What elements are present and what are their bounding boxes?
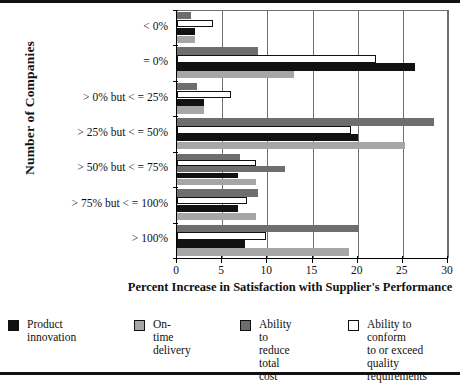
- y-axis-category-label: > 50% but < = 75%: [77, 161, 168, 173]
- bar: [177, 63, 415, 70]
- y-axis-category-label: < 0%: [143, 20, 168, 32]
- bar: [177, 160, 256, 166]
- gridline: [448, 10, 449, 258]
- light-gray-swatch: [134, 320, 145, 331]
- y-axis-tick: [173, 10, 178, 11]
- y-axis-tick: [173, 81, 178, 82]
- bar: [177, 142, 405, 149]
- bar: [177, 166, 285, 172]
- y-axis-category-label: > 0% but < = 25%: [83, 91, 168, 103]
- gridline: [358, 10, 359, 258]
- bar: [177, 28, 195, 35]
- bar: [177, 91, 231, 98]
- bar: [177, 197, 247, 204]
- x-axis-tick-label: 25: [387, 264, 417, 276]
- bar: [177, 189, 258, 196]
- bar: [177, 83, 197, 90]
- plot-area: [176, 10, 448, 258]
- y-axis-category-label: > 25% but < = 50%: [77, 126, 168, 138]
- bar: [177, 179, 256, 185]
- bar: [177, 71, 294, 78]
- x-axis-tick: [266, 256, 267, 263]
- bar: [177, 154, 240, 160]
- bar: [177, 232, 266, 239]
- bar: [177, 225, 358, 232]
- bar-chart: Number of Companies < 0%= 0%> 0% but < =…: [0, 4, 460, 262]
- x-axis-title: Percent Increase in Satisfaction with Su…: [120, 280, 460, 294]
- y-axis-tick: [173, 223, 178, 224]
- x-axis-tick-label: 30: [432, 264, 460, 276]
- chart-legend: Product innovationOn-time deliveryAbilit…: [8, 318, 460, 372]
- y-axis-tick: [173, 152, 178, 153]
- x-axis-tick: [221, 256, 222, 263]
- bar: [177, 205, 238, 212]
- bar: [177, 20, 213, 27]
- y-axis-tick: [173, 45, 178, 46]
- bottom-rule: [0, 372, 460, 375]
- x-axis: 051015202530: [176, 258, 448, 259]
- bar: [177, 99, 204, 106]
- y-axis-tick-labels: < 0%= 0%> 0% but < = 25%> 25% but < = 50…: [24, 10, 172, 258]
- bar: [177, 134, 358, 141]
- y-axis-category-label: > 100%: [132, 232, 168, 244]
- bar: [177, 106, 204, 113]
- x-axis-tick-label: 0: [161, 264, 191, 276]
- legend-label: On-time delivery: [153, 318, 191, 357]
- y-axis-category-label: = 0%: [143, 55, 168, 67]
- bar: [177, 12, 191, 19]
- x-axis-tick-label: 15: [297, 264, 327, 276]
- top-rule: [0, 0, 460, 3]
- x-axis-tick: [176, 256, 177, 263]
- bar: [177, 55, 376, 62]
- bar: [177, 240, 245, 247]
- y-axis-tick: [173, 116, 178, 117]
- white-swatch: [348, 320, 359, 331]
- bar: [177, 118, 434, 125]
- x-axis-tick: [402, 256, 403, 263]
- x-axis-tick: [447, 256, 448, 263]
- y-axis-tick: [173, 187, 178, 188]
- bar: [177, 173, 238, 179]
- gridline: [403, 10, 404, 258]
- x-axis-tick-label: 5: [206, 264, 236, 276]
- legend-label: Product innovation: [27, 318, 76, 344]
- dark-gray-swatch: [240, 320, 251, 331]
- bar: [177, 213, 256, 220]
- x-axis-tick-label: 10: [251, 264, 281, 276]
- bar: [177, 36, 195, 43]
- x-axis-tick: [312, 256, 313, 263]
- bar: [177, 248, 349, 255]
- y-axis-category-label: > 75% but < = 100%: [72, 197, 168, 209]
- x-axis-tick: [357, 256, 358, 263]
- bar: [177, 126, 351, 133]
- black-swatch: [8, 320, 19, 331]
- bar: [177, 47, 258, 54]
- x-axis-tick-label: 20: [342, 264, 372, 276]
